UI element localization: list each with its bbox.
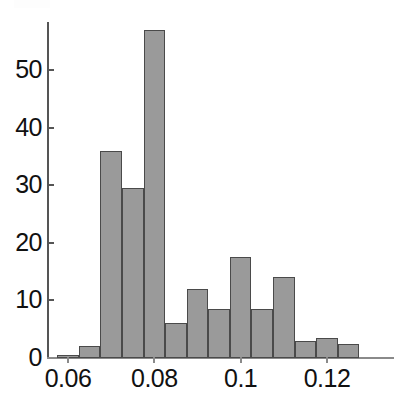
x-axis-tick <box>153 357 155 363</box>
histogram-figure: 01020304050 0.060.080.10.12 <box>0 0 409 409</box>
histogram-bar <box>165 323 187 358</box>
y-axis-tick-label: 40 <box>15 115 42 140</box>
y-axis-tick-label: 30 <box>15 172 42 197</box>
y-axis-tick-label: 10 <box>15 287 42 312</box>
histogram-bar <box>187 289 209 358</box>
histogram-bar <box>208 309 230 358</box>
histogram-bar <box>122 188 144 358</box>
histogram-bar <box>100 151 122 358</box>
histogram-bar <box>273 277 295 358</box>
histogram-bar <box>338 344 360 358</box>
histogram-bar <box>295 341 317 358</box>
y-axis-tick <box>47 127 54 129</box>
histogram-bar <box>316 338 338 358</box>
cropped-label-artifact <box>14 0 50 8</box>
y-axis-tick <box>47 299 54 301</box>
y-axis-tick <box>47 184 54 186</box>
x-axis-tick-label: 0.08 <box>131 366 178 391</box>
y-axis-spine <box>47 22 49 359</box>
y-axis-tick <box>47 242 54 244</box>
x-axis-tick-label: 0.1 <box>224 366 257 391</box>
histogram-bar <box>230 257 252 358</box>
x-axis-tick-label: 0.06 <box>45 366 92 391</box>
x-axis-tick <box>326 357 328 363</box>
x-axis-tick <box>240 357 242 363</box>
x-axis-tick-label: 0.12 <box>304 366 351 391</box>
y-axis-tick-label: 50 <box>15 57 42 82</box>
histogram-bar <box>79 346 101 358</box>
x-axis-tick <box>67 357 69 363</box>
histogram-bar <box>144 30 166 358</box>
y-axis-tick-label: 20 <box>15 230 42 255</box>
y-axis-tick <box>47 69 54 71</box>
y-axis-tick-label: 0 <box>29 345 42 370</box>
histogram-bar <box>251 309 273 358</box>
